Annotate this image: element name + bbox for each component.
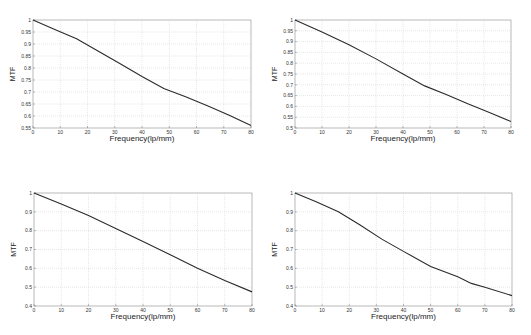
x-tick-label: 70 <box>222 307 228 313</box>
y-tick-label: 0.55 <box>283 114 293 120</box>
mtf-chart-1: 010203040506070800.550.60.650.70.750.80.… <box>9 17 254 143</box>
y-tick-label: 0.7 <box>286 246 293 252</box>
x-tick-label: 20 <box>86 307 92 313</box>
x-tick-label: 0 <box>33 307 36 313</box>
y-tick-label: 0.6 <box>286 265 293 271</box>
y-tick-label: 0.5 <box>25 284 32 290</box>
x-tick-label: 10 <box>57 129 63 135</box>
x-axis-label: Frequency(lp/mm) <box>371 312 436 321</box>
x-tick-label: 70 <box>482 307 488 313</box>
y-tick-label: 0.5 <box>286 125 293 131</box>
x-axis-label: Frequency(lp/mm) <box>371 134 436 143</box>
y-tick-label: 0.9 <box>24 41 31 47</box>
mtf-chart-4: 010203040506070800.40.50.60.70.80.91Freq… <box>271 190 515 321</box>
y-tick-label: 0.8 <box>25 227 32 233</box>
x-tick-label: 0 <box>294 129 297 135</box>
x-tick-label: 10 <box>58 307 64 313</box>
x-axis-label: Frequency(lp/mm) <box>111 312 176 321</box>
y-tick-label: 0.7 <box>286 82 293 88</box>
y-tick-label: 0.4 <box>25 303 32 309</box>
y-tick-label: 0.95 <box>283 28 293 34</box>
x-tick-label: 0 <box>294 307 297 313</box>
x-tick-label: 60 <box>194 129 200 135</box>
mtf-chart-3: 010203040506070800.40.50.60.70.80.91Freq… <box>10 190 255 321</box>
y-tick-label: 0.6 <box>24 113 31 119</box>
mtf-chart-2: 010203040506070800.50.550.60.650.70.750.… <box>271 17 514 143</box>
y-tick-label: 0.55 <box>21 125 31 131</box>
y-tick-label: 0.75 <box>21 77 31 83</box>
x-tick-label: 0 <box>32 129 35 135</box>
x-tick-label: 60 <box>455 307 461 313</box>
x-tick-label: 80 <box>249 307 255 313</box>
y-tick-label: 0.75 <box>283 71 293 77</box>
y-tick-label: 0.9 <box>286 38 293 44</box>
y-tick-label: 0.9 <box>286 209 293 215</box>
y-axis-label: MTF <box>9 67 16 81</box>
x-tick-label: 80 <box>509 307 515 313</box>
x-tick-label: 60 <box>195 307 201 313</box>
y-tick-label: 0.8 <box>24 65 31 71</box>
y-tick-label: 0.6 <box>25 265 32 271</box>
x-tick-label: 20 <box>346 307 352 313</box>
x-tick-label: 80 <box>248 129 254 135</box>
y-axis-label: MTF <box>271 242 278 256</box>
y-tick-label: 0.8 <box>286 227 293 233</box>
y-tick-label: 0.8 <box>286 60 293 66</box>
y-axis-label: MTF <box>10 242 17 256</box>
y-tick-label: 0.95 <box>21 29 31 35</box>
y-tick-label: 0.6 <box>286 103 293 109</box>
x-tick-label: 10 <box>319 307 325 313</box>
y-axis-label: MTF <box>271 67 278 81</box>
x-tick-label: 20 <box>85 129 91 135</box>
y-tick-label: 0.4 <box>286 303 293 309</box>
y-tick-label: 0.65 <box>21 101 31 107</box>
x-tick-label: 70 <box>481 129 487 135</box>
y-tick-label: 0.65 <box>283 92 293 98</box>
x-tick-label: 10 <box>319 129 325 135</box>
y-tick-label: 1 <box>28 17 31 23</box>
y-tick-label: 0.7 <box>24 89 31 95</box>
y-tick-label: 1 <box>290 190 293 196</box>
y-tick-label: 1 <box>29 190 32 196</box>
mtf-chart-grid: 010203040506070800.550.60.650.70.750.80.… <box>0 0 531 335</box>
x-tick-label: 20 <box>346 129 352 135</box>
y-tick-label: 0.5 <box>286 284 293 290</box>
y-tick-label: 1 <box>290 17 293 23</box>
x-tick-label: 70 <box>221 129 227 135</box>
y-tick-label: 0.7 <box>25 246 32 252</box>
x-tick-label: 80 <box>508 129 514 135</box>
y-tick-label: 0.85 <box>283 49 293 55</box>
y-tick-label: 0.85 <box>21 53 31 59</box>
y-tick-label: 0.9 <box>25 209 32 215</box>
x-tick-label: 60 <box>454 129 460 135</box>
x-axis-label: Frequency(lp/mm) <box>110 134 175 143</box>
